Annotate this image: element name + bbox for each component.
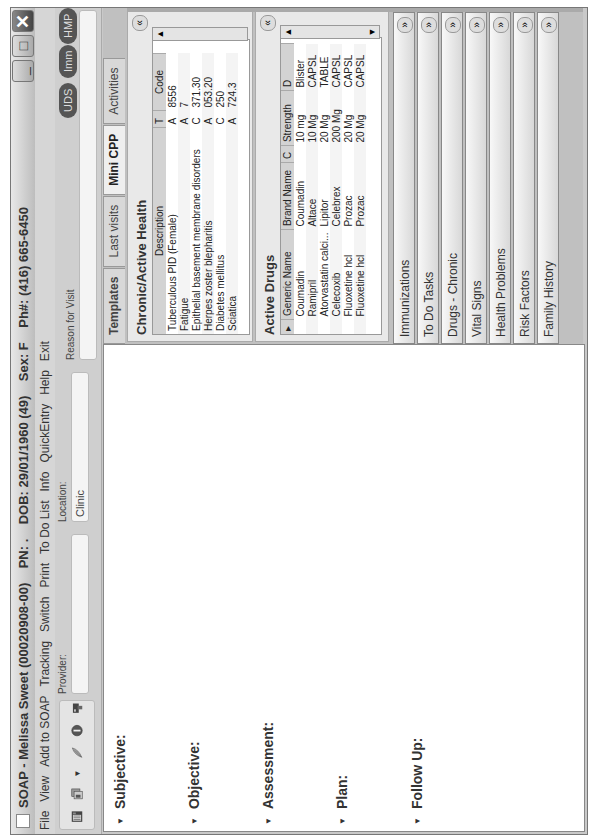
scroll-up-icon[interactable]: ▲ (283, 26, 293, 38)
expand-icon[interactable]: » (541, 17, 557, 33)
col-code[interactable]: Code (153, 54, 166, 111)
table-row[interactable]: Fluoxetine hclProzac20 MgCAPSL (342, 44, 354, 334)
active-drugs-panel: Active Drugs « ▸ Generic Name Brand Name… (255, 10, 389, 342)
col-type[interactable]: T (153, 111, 166, 128)
table-row[interactable]: Herpes zoster blepharitisA053.20 (202, 54, 214, 335)
panel-vital-signs[interactable]: Vital Signs» (465, 12, 487, 344)
expand-icon[interactable]: » (445, 17, 461, 33)
table-row[interactable]: CelecoxibCelebrex200 MgCAPSL (330, 44, 342, 334)
toolbar-icons: ▼ (59, 700, 95, 830)
hmp-button[interactable]: HMP (59, 8, 77, 44)
imm-button[interactable]: Imm (59, 45, 77, 78)
panel-health-problems[interactable]: Health Problems» (489, 12, 511, 344)
menu-help[interactable]: Help (38, 370, 52, 395)
rotated-canvas: SOAP - Melissa Sweet (00020908-00) PN: .… (0, 0, 603, 839)
tab-mini-cpp[interactable]: Mini CPP (103, 125, 125, 195)
minimize-button[interactable]: _ (12, 60, 34, 82)
location-field[interactable]: Clinic (71, 372, 89, 522)
soap-section-subjective[interactable]: ▼Subjective: (112, 734, 128, 825)
documents-icon[interactable] (66, 787, 88, 800)
tab-templates[interactable]: Templates (103, 268, 125, 344)
expand-icon[interactable]: » (469, 17, 485, 33)
reason-for-visit-label: Reason for Visit (65, 290, 76, 360)
scroll-down-icon[interactable]: ▼ (367, 26, 377, 38)
soap-section-assessment[interactable]: ▼Assessment: (260, 722, 276, 825)
panel-immunizations[interactable]: Immunizations» (393, 12, 415, 344)
drugs-vertical-scrollbar[interactable]: ▲ ▼ (280, 25, 380, 39)
panel-drugs-chronic[interactable]: Drugs - Chronic» (441, 12, 463, 344)
app-icon (16, 814, 30, 828)
expand-arrow-icon: ▼ (338, 817, 347, 825)
col-generic-name[interactable]: Generic Name (281, 230, 294, 320)
table-row[interactable]: Epithelial basement membrane disordersC3… (190, 54, 202, 335)
scroll-up-icon[interactable]: ▲ (155, 28, 165, 40)
uds-button[interactable]: UDS (59, 83, 77, 118)
soap-window: SOAP - Melissa Sweet (00020908-00) PN: .… (10, 7, 588, 835)
table-row[interactable]: CoumadinCoumadin10 mgBlister (294, 44, 306, 334)
tab-activities[interactable]: Activities (103, 58, 125, 123)
expand-arrow-icon: ▼ (190, 817, 199, 825)
right-panel-scrollbar[interactable] (127, 8, 583, 12)
expand-icon[interactable]: » (517, 17, 533, 33)
notes-icon[interactable] (66, 810, 88, 823)
panel-to-do-tasks[interactable]: To Do Tasks» (417, 12, 439, 344)
active-drugs-title: Active Drugs (262, 255, 277, 335)
menu-print[interactable]: Print (38, 563, 52, 588)
provider-field[interactable] (71, 534, 89, 694)
col-d[interactable]: D (281, 44, 294, 91)
panel-family-history[interactable]: Family History» (537, 12, 559, 344)
row-indicator: ▸ (281, 320, 294, 335)
window-title: SOAP - Melissa Sweet (00020908-00) PN: .… (16, 207, 31, 808)
info-icon[interactable] (66, 724, 88, 737)
table-row[interactable]: SciaticaA724.3 (226, 54, 238, 335)
expand-arrow-icon: ▼ (116, 817, 125, 825)
menu-to-do-list[interactable]: To Do List (38, 501, 52, 554)
menu-view[interactable]: View (38, 776, 52, 802)
soap-section-objective[interactable]: ▼Objective: (186, 741, 202, 825)
expand-arrow-icon: ▼ (413, 817, 422, 825)
printer-icon[interactable] (66, 701, 88, 714)
close-button[interactable]: ✕ (12, 10, 34, 32)
soap-note-area[interactable]: ▼Subjective: ▼Objective: ▼Assessment: ▼P… (103, 344, 585, 832)
collapse-chronic-button[interactable]: « (132, 15, 148, 31)
chronic-table: Description T Code Tuberculous PID (Fema… (152, 39, 250, 335)
collapse-drugs-button[interactable]: « (260, 15, 276, 31)
menu-add-to-soap[interactable]: Add to SOAP (38, 695, 52, 766)
col-brand-name[interactable]: Brand Name (281, 163, 294, 230)
panel-risk-factors[interactable]: Risk Factors» (513, 12, 535, 344)
soap-section-plan[interactable]: ▼Plan: (334, 775, 350, 825)
right-panel: Templates Last visits Mini CPP Activitie… (103, 8, 583, 344)
expand-icon[interactable]: » (421, 17, 437, 33)
title-bar: SOAP - Melissa Sweet (00020908-00) PN: .… (11, 8, 36, 834)
toolbar: ▼ Provider: Location: Clinic Reason for … (55, 8, 102, 834)
table-row[interactable]: RamiprilAltace10 MgCAPSL (306, 44, 318, 334)
location-label: Location: (57, 481, 68, 522)
menu-quickentry[interactable]: QuickEntry (38, 404, 52, 463)
dropdown-arrow-icon[interactable]: ▼ (73, 769, 82, 777)
table-row[interactable]: Tuberculous PID (Female)A8556 (166, 54, 178, 335)
col-strength[interactable]: Strength (281, 91, 294, 146)
col-description[interactable]: Description (153, 128, 166, 335)
table-row[interactable]: Fluoxetine hclProzac20 MgCAPSL (354, 44, 366, 334)
chronic-vertical-scrollbar[interactable]: ▲ (152, 27, 248, 41)
menu-tracking[interactable]: Tracking (38, 641, 52, 687)
feather-icon[interactable] (66, 747, 88, 760)
col-c[interactable]: C (281, 146, 294, 163)
menu-switch[interactable]: Switch (38, 597, 52, 632)
maximize-button[interactable]: □ (12, 35, 34, 57)
menu-info[interactable]: Info (38, 472, 52, 492)
menu-exit[interactable]: Exit (38, 341, 52, 361)
drugs-table: ▸ Generic Name Brand Name C Strength D C… (280, 37, 382, 335)
menu-file[interactable]: File (38, 811, 52, 830)
table-row[interactable]: Atorvastatin calci...Lipitor20 MgTABLE (318, 44, 330, 334)
table-row[interactable]: Diabetes mellitusC250 (214, 54, 226, 335)
right-tabs: Templates Last visits Mini CPP Activitie… (103, 8, 125, 344)
provider-label: Provider: (57, 654, 68, 694)
expand-icon[interactable]: » (493, 17, 509, 33)
soap-section-follow-up[interactable]: ▼Follow Up: (409, 738, 425, 825)
chronic-active-health-panel: Chronic/Active Health « Description T Co… (127, 10, 253, 342)
tab-last-visits[interactable]: Last visits (103, 196, 125, 267)
table-row[interactable]: FatigueA7 (178, 54, 190, 335)
expand-icon[interactable]: » (397, 17, 413, 33)
reason-for-visit-field[interactable] (79, 10, 97, 360)
